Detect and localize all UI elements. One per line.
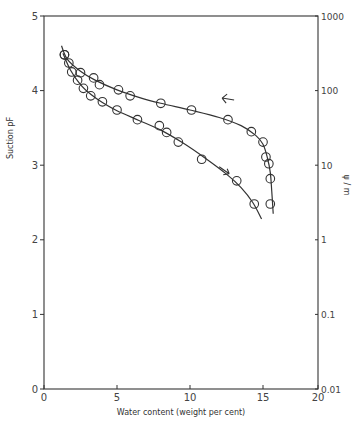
y-tick-label: 4 (32, 85, 38, 96)
curves (62, 46, 274, 219)
data-point-series-2 (86, 92, 95, 101)
y2-tick-label: 1000 (321, 12, 344, 22)
arrow-down-right-icon (219, 167, 229, 175)
y2-tick-label: 100 (321, 86, 338, 96)
x-tick-label: 0 (41, 392, 47, 403)
y2-tick-label: 0.01 (321, 385, 341, 395)
direction-arrows (219, 94, 234, 175)
y-tick-label: 5 (32, 11, 38, 22)
y-tick-label: 2 (32, 234, 38, 245)
y2-axis-ticks: 0.010.11101001000 (315, 12, 344, 395)
x-tick-label: 5 (114, 392, 120, 403)
y-axis-title: Suction pF (6, 117, 15, 159)
data-point-series-1 (95, 80, 104, 89)
arrow-left-icon (222, 94, 234, 103)
x-tick-label: 15 (257, 392, 270, 403)
x-axis-ticks: 05101520 (41, 385, 325, 403)
y-tick-label: 3 (32, 160, 38, 171)
x-tick-label: 10 (184, 392, 197, 403)
water-retention-chart: 05101520 012345 0.010.11101001000 Water … (0, 0, 361, 429)
data-point-series-2 (113, 106, 122, 115)
y-tick-label: 0 (32, 384, 38, 395)
y2-tick-label: 0.1 (321, 310, 335, 320)
data-markers (60, 50, 274, 208)
data-point-series-2 (162, 128, 171, 137)
data-point-series-2 (155, 121, 164, 130)
data-point-series-2 (98, 97, 107, 106)
y2-tick-label: 10 (321, 161, 333, 171)
data-point-series-1 (266, 200, 275, 209)
y-tick-label: 1 (32, 309, 38, 320)
y2-axis-title: ψ / m (342, 175, 351, 196)
y-axis-ticks: 012345 (32, 11, 44, 395)
y2-tick-label: 1 (321, 235, 327, 245)
curve-series-2 (63, 53, 262, 219)
x-axis-title: Water content (weight per cent) (117, 408, 245, 417)
